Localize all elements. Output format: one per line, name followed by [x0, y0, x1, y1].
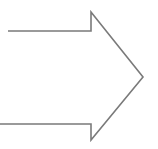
arrow-shape: [0, 0, 158, 149]
right-arrow-icon: [0, 12, 143, 140]
